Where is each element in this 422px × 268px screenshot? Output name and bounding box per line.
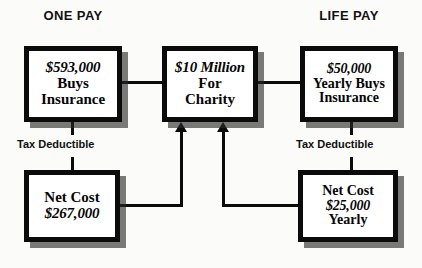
node-one-pay-premium-amount: $593,000 (46, 60, 101, 76)
connector-right-netcost-vertical (222, 131, 225, 206)
node-one-pay-premium-line2: Buys (57, 76, 89, 92)
node-life-pay-premium-line3: Insurance (319, 91, 379, 106)
connector-charity-to-life-pay (258, 81, 302, 84)
label-tax-deductible-left: Tax Deductible (14, 138, 97, 150)
node-one-pay-net-cost-amount: $267,000 (45, 206, 100, 222)
node-life-pay-net-cost-period: Yearly (329, 213, 368, 228)
node-life-pay-premium-inner: $50,000 Yearly Buys Insurance (304, 50, 394, 118)
connector-life-pay-tax-deductible-upper (350, 122, 353, 135)
connector-one-pay-tax-deductible-upper (71, 122, 74, 135)
heading-one-pay: ONE PAY (24, 8, 122, 23)
connector-life-pay-tax-deductible-lower (350, 157, 353, 170)
node-life-pay-net-cost-inner: Net Cost $25,000 Yearly (302, 174, 394, 238)
node-charity-amount: $10 Million (175, 60, 245, 76)
arrow-right-netcost-to-charity-icon (217, 122, 229, 132)
node-one-pay-net-cost[interactable]: Net Cost $267,000 (24, 170, 120, 242)
node-one-pay-premium-line3: Insurance (41, 92, 105, 108)
connector-right-netcost-horizontal (222, 204, 298, 207)
node-life-pay-net-cost-amount: $25,000 (326, 199, 370, 214)
heading-life-pay: LIFE PAY (300, 8, 398, 23)
node-one-pay-net-cost-label: Net Cost (44, 190, 99, 206)
arrow-left-netcost-to-charity-icon (175, 122, 187, 132)
connector-left-netcost-vertical (180, 131, 183, 206)
connector-left-netcost-horizontal (118, 204, 183, 207)
connector-one-pay-tax-deductible-lower (71, 157, 74, 170)
node-life-pay-premium[interactable]: $50,000 Yearly Buys Insurance (300, 46, 398, 122)
node-charity-line2: For (198, 76, 221, 92)
node-life-pay-premium-line2: Yearly Buys (313, 77, 385, 92)
node-charity-inner: $10 Million For Charity (166, 50, 254, 118)
node-life-pay-net-cost[interactable]: Net Cost $25,000 Yearly (298, 170, 398, 242)
diagram-canvas: ONE PAY LIFE PAY Tax Deductible Tax Dedu… (0, 0, 422, 268)
node-one-pay-premium-inner: $593,000 Buys Insurance (28, 50, 118, 118)
connector-one-pay-to-charity (120, 81, 164, 84)
node-charity[interactable]: $10 Million For Charity (162, 46, 258, 122)
node-one-pay-net-cost-inner: Net Cost $267,000 (28, 174, 116, 238)
node-life-pay-premium-amount: $50,000 (327, 62, 371, 77)
node-one-pay-premium[interactable]: $593,000 Buys Insurance (24, 46, 122, 122)
node-life-pay-net-cost-label: Net Cost (322, 184, 374, 199)
node-charity-line3: Charity (185, 92, 235, 108)
label-tax-deductible-right: Tax Deductible (293, 138, 376, 150)
